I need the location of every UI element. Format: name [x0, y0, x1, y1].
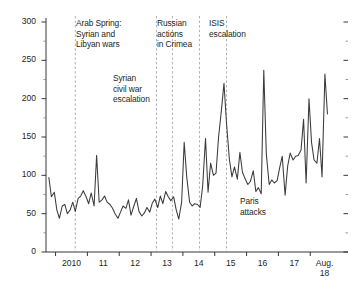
x-axis-tick-label: 13	[152, 258, 182, 268]
annotation-isis-escalation: ISIS escalation	[209, 18, 246, 39]
x-axis-tick-label: 11	[88, 258, 118, 268]
x-axis-tick-label: 12	[120, 258, 150, 268]
y-axis-tick-label: 150	[12, 131, 36, 141]
y-axis-tick-label: 250	[12, 54, 36, 64]
annotation-syrian-civil-war: Syrian civil war escalation	[113, 73, 150, 105]
x-axis-tick-label: 16	[248, 258, 278, 268]
y-axis-tick-label: 0	[12, 246, 36, 256]
annotation-russian-actions-crimea: Russian actions in Crimea	[157, 18, 192, 50]
x-axis-tick-label: 15	[216, 258, 246, 268]
y-axis-tick-label: 300	[12, 16, 36, 26]
data-series-line	[49, 70, 328, 219]
chart-container: Arab Spring: Syrian and Libyan wars Syri…	[0, 0, 355, 295]
annotation-arab-spring: Arab Spring: Syrian and Libyan wars	[76, 18, 121, 50]
x-axis-tick-label: 17	[279, 258, 309, 268]
x-axis-tick-label: Aug. 18	[310, 258, 340, 279]
annotation-paris-attacks: Paris attacks	[240, 196, 266, 217]
x-axis-tick-label: 2010	[56, 258, 86, 268]
y-axis-tick-label: 50	[12, 208, 36, 218]
x-axis-tick-label: 14	[184, 258, 214, 268]
y-axis-tick-label: 200	[12, 93, 36, 103]
y-axis-tick-label: 100	[12, 169, 36, 179]
